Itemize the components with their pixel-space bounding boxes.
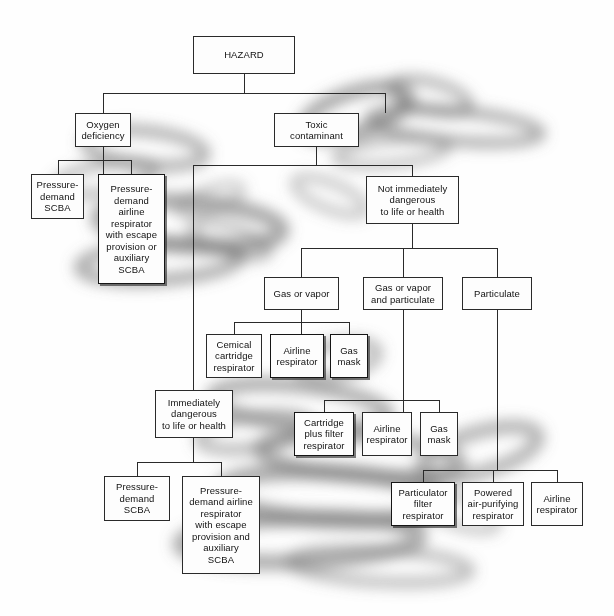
node-label-particulate: Particulate [474, 288, 520, 300]
node-pd-scba-2[interactable]: Pressure- demand SCBA [104, 476, 170, 521]
node-label-oxygen: Oxygen deficiency [81, 119, 124, 142]
node-label-gas-vapor-part: Gas or vapor and particulate [371, 282, 435, 305]
node-oxygen[interactable]: Oxygen deficiency [75, 113, 131, 147]
node-powered-apr[interactable]: Powered air-purifying respirator [462, 482, 524, 526]
node-pd-airline-2[interactable]: Pressure- demand airline respirator with… [182, 476, 260, 574]
node-particulate[interactable]: Particulate [462, 277, 532, 310]
node-gas-vapor[interactable]: Gas or vapor [264, 277, 339, 310]
node-idlh[interactable]: Immediately dangerous to life or health [155, 390, 233, 438]
node-label-chem-cart: Cemical cartridge respirator [213, 339, 254, 374]
node-toxic[interactable]: Toxic contaminant [274, 113, 359, 147]
node-label-part-filter: Particulator filter respirator [398, 487, 447, 522]
node-container: HAZARDOxygen deficiencyToxic contaminant… [0, 0, 614, 616]
node-label-not-idlh: Not immediately dangerous to life or hea… [378, 183, 448, 218]
node-label-gas-mask-2: Gas mask [427, 423, 450, 446]
node-label-pd-airline-1: Pressure- demand airline respirator with… [106, 183, 157, 275]
respirator-selection-flowchart: HAZARDOxygen deficiencyToxic contaminant… [0, 0, 614, 616]
node-gas-vapor-part[interactable]: Gas or vapor and particulate [363, 277, 443, 310]
node-label-hazard: HAZARD [224, 49, 264, 61]
node-cart-filter[interactable]: Cartridge plus filter respirator [294, 412, 354, 456]
node-chem-cart[interactable]: Cemical cartridge respirator [206, 334, 262, 378]
node-pd-scba-1[interactable]: Pressure- demand SCBA [31, 174, 84, 219]
node-label-idlh: Immediately dangerous to life or health [162, 397, 226, 432]
node-label-cart-filter: Cartridge plus filter respirator [303, 417, 344, 452]
node-label-toxic: Toxic contaminant [290, 119, 343, 142]
node-not-idlh[interactable]: Not immediately dangerous to life or hea… [366, 176, 459, 224]
node-label-pd-airline-2: Pressure- demand airline respirator with… [189, 485, 253, 566]
node-label-airline-1: Airline respirator [276, 345, 317, 368]
node-gas-mask-1[interactable]: Gas mask [330, 334, 368, 378]
node-airline-2[interactable]: Airline respirator [362, 412, 412, 456]
node-airline-3[interactable]: Airline respirator [531, 482, 583, 526]
node-airline-1[interactable]: Airline respirator [270, 334, 324, 378]
node-part-filter[interactable]: Particulator filter respirator [391, 482, 455, 526]
node-label-gas-mask-1: Gas mask [337, 345, 360, 368]
node-label-powered-apr: Powered air-purifying respirator [468, 487, 519, 522]
node-gas-mask-2[interactable]: Gas mask [420, 412, 458, 456]
node-pd-airline-1[interactable]: Pressure- demand airline respirator with… [98, 174, 165, 284]
node-label-airline-3: Airline respirator [536, 493, 577, 516]
node-hazard[interactable]: HAZARD [193, 36, 295, 74]
node-label-pd-scba-1: Pressure- demand SCBA [36, 179, 78, 214]
node-label-airline-2: Airline respirator [366, 423, 407, 446]
node-label-pd-scba-2: Pressure- demand SCBA [116, 481, 158, 516]
node-label-gas-vapor: Gas or vapor [273, 288, 329, 300]
